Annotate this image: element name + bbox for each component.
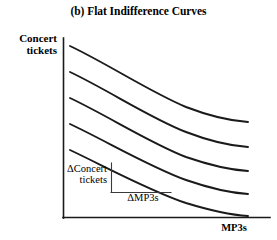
axes-group — [63, 38, 270, 218]
delta-concert-tickets-label: ΔConcert tickets — [40, 163, 107, 186]
delta-mp3s-label: ΔMP3s — [113, 192, 173, 203]
y-axis-label: Concert tickets — [0, 33, 57, 57]
x-axis-label: MP3s — [196, 222, 272, 233]
indifference-curves-group — [70, 46, 248, 216]
indifference-curve-3 — [70, 98, 248, 171]
chart-title: (b) Flat Indifference Curves — [0, 5, 277, 17]
indifference-curve-figure: (b) Flat Indifference Curves Concert tic… — [0, 0, 277, 240]
indifference-curve-2 — [70, 72, 248, 147]
delta-bracket-group — [111, 163, 171, 193]
